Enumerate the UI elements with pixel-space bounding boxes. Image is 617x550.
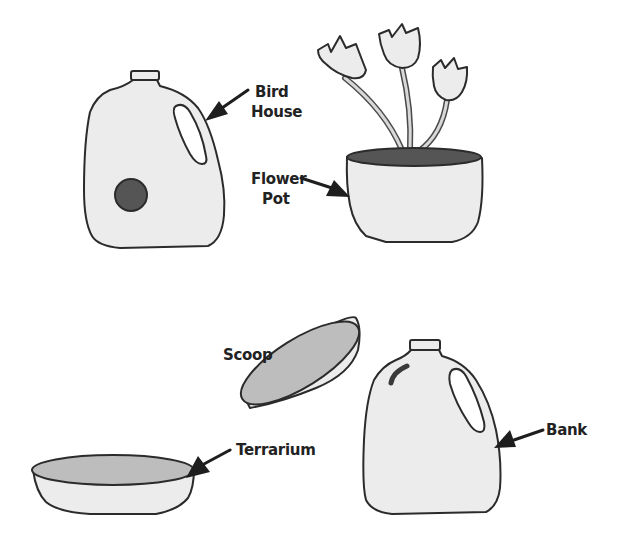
jug-cap xyxy=(410,340,440,350)
bird-entrance-hole xyxy=(115,179,147,211)
bank-jug xyxy=(363,340,500,514)
flower-pot xyxy=(318,24,483,242)
flower-pot-label-group: Flower Pot xyxy=(251,170,350,208)
bird-house-label-line2: House xyxy=(251,103,302,121)
bird-house-jug xyxy=(84,71,224,248)
tulip-stem-right xyxy=(418,100,447,152)
terrarium-label-group: Terrarium xyxy=(186,441,315,478)
bank-arrow-line xyxy=(514,430,543,440)
terrarium-opening xyxy=(32,455,194,485)
terrarium-arrow-line xyxy=(204,450,230,464)
flower-pot-label-line2: Pot xyxy=(262,190,290,208)
milk-jug-uses-illustration: Bird House Flower Pot Scoop xyxy=(0,0,617,550)
flower-pot-label: Flower xyxy=(251,170,307,188)
scoop-label-group: Scoop xyxy=(223,346,273,364)
pot-opening xyxy=(347,148,481,166)
tulip-flower-middle xyxy=(379,24,420,68)
bird-house-arrow-line xyxy=(222,90,248,108)
tulip-stem-left xyxy=(345,78,402,150)
bank-label: Bank xyxy=(546,421,588,439)
bank-label-group: Bank xyxy=(494,421,588,448)
bird-house-label: Bird xyxy=(255,83,289,101)
tulip-flower-left xyxy=(318,36,366,78)
jug-cap xyxy=(131,71,159,80)
pot-body xyxy=(347,157,483,242)
bird-house-arrow-head xyxy=(205,101,228,121)
terrarium xyxy=(32,455,194,514)
bird-house-label-group: Bird House xyxy=(205,83,302,121)
terrarium-label: Terrarium xyxy=(236,441,315,459)
scoop-label: Scoop xyxy=(223,346,273,364)
tulip-flower-right xyxy=(433,58,467,100)
